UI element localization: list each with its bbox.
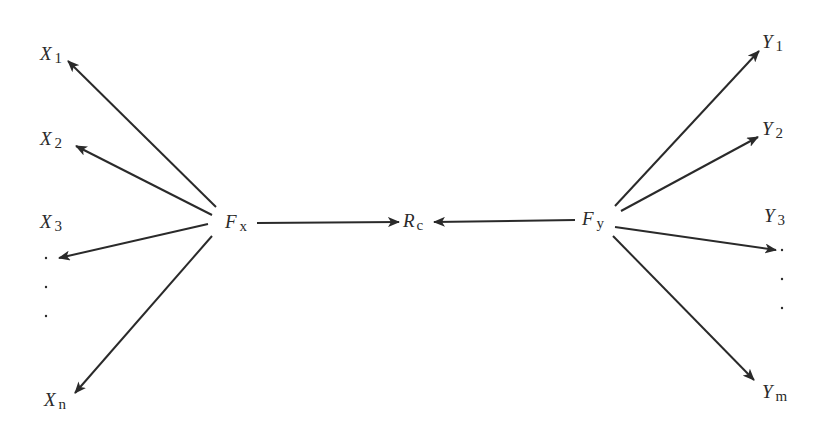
node-xn-base: X xyxy=(43,389,57,410)
node-xn: Xn xyxy=(43,389,67,412)
edge-fy-ym xyxy=(613,236,754,380)
node-y1-sub: 1 xyxy=(776,38,784,54)
edge-fx-rc xyxy=(257,222,399,223)
node-fx-sub: x xyxy=(240,218,248,234)
node-ym-sub: m xyxy=(776,388,788,404)
node-x2-sub: 2 xyxy=(55,135,63,151)
node-y3: Y3 xyxy=(764,205,785,228)
edge-fx-xn xyxy=(75,236,212,393)
node-y2-base: Y xyxy=(762,118,775,139)
node-x2-base: X xyxy=(39,128,53,149)
node-fx: Fx xyxy=(224,211,248,234)
node-x1-sub: 1 xyxy=(55,50,63,66)
node-x3: X3 xyxy=(39,211,62,234)
node-y2: Y2 xyxy=(762,118,783,141)
node-rc: Rc xyxy=(402,210,424,233)
edge-fy-y2 xyxy=(621,137,758,211)
node-ym: Ym xyxy=(762,381,788,404)
node-fy: Fy xyxy=(581,208,605,231)
edge-fy-y3 xyxy=(615,227,776,250)
node-rc-base: R xyxy=(402,210,415,231)
node-fx-base: F xyxy=(224,211,237,232)
node-y1-base: Y xyxy=(762,31,775,52)
edge-fx-x3 xyxy=(59,224,208,258)
node-fy-sub: y xyxy=(597,215,605,231)
node-x1: X1 xyxy=(39,43,62,66)
node-x2: X2 xyxy=(39,128,62,151)
edge-fy-y1 xyxy=(615,51,759,206)
node-fy-base: F xyxy=(581,208,594,229)
node-x3-base: X xyxy=(39,211,53,232)
node-y1: Y1 xyxy=(762,31,783,54)
ellipsis-left xyxy=(45,257,47,317)
edge-fx-x2 xyxy=(76,146,212,215)
edge-fy-rc xyxy=(434,220,575,222)
node-y3-sub: 3 xyxy=(778,212,786,228)
node-x3-sub: 3 xyxy=(55,218,63,234)
node-ym-base: Y xyxy=(762,381,775,402)
factor-diagram: X1 X2 X3 Xn Fx Rc Fy Y1 Y2 Y3 Ym xyxy=(0,0,832,432)
node-rc-sub: c xyxy=(417,217,424,233)
node-y2-sub: 2 xyxy=(776,125,784,141)
node-y3-base: Y xyxy=(764,205,777,226)
node-x1-base: X xyxy=(39,43,53,64)
node-xn-sub: n xyxy=(59,396,67,412)
edge-fx-x1 xyxy=(68,61,216,207)
ellipsis-right xyxy=(781,249,783,309)
